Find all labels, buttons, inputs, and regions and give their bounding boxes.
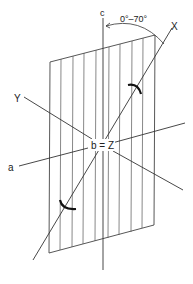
- angle-label: 0°–70°: [120, 14, 148, 24]
- y-axis-label: Y: [14, 93, 21, 104]
- a-axis-label: a: [8, 162, 14, 173]
- a-axis-right: [112, 123, 185, 143]
- y-axis-right: [113, 151, 183, 190]
- axes-diagram: c 0°–70° X Y a b = Z: [0, 0, 193, 284]
- x-axis-label: X: [171, 21, 178, 32]
- rotation-mark-upper: [128, 85, 141, 94]
- a-axis-left: [19, 148, 88, 166]
- c-axis-label: c: [100, 8, 105, 18]
- center-label: b = Z: [91, 140, 114, 151]
- y-axis-left: [24, 97, 92, 139]
